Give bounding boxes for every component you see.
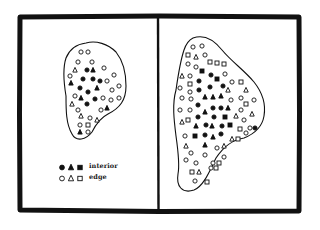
filled-square-marker-icon bbox=[223, 115, 227, 119]
filled-circle-marker-icon bbox=[208, 85, 212, 89]
hollow-circle-marker-icon bbox=[102, 66, 106, 70]
hollow-triangle-marker-icon bbox=[197, 169, 201, 174]
hollow-circle-marker-icon bbox=[112, 73, 116, 77]
hollow-triangle-marker-icon bbox=[73, 67, 77, 72]
edge-symbols-icon bbox=[58, 173, 86, 183]
hollow-square-marker-icon bbox=[239, 80, 243, 84]
left-marker-cluster bbox=[68, 50, 121, 134]
hollow-circle-marker-icon bbox=[239, 108, 243, 112]
hollow-circle-marker-icon bbox=[88, 116, 92, 120]
hollow-circle-marker-icon bbox=[193, 179, 197, 183]
hollow-circle-marker-icon bbox=[105, 79, 109, 83]
hollow-circle-marker-icon bbox=[101, 96, 105, 100]
hollow-circle-marker-icon bbox=[78, 123, 82, 127]
filled-triangle-marker-icon bbox=[194, 123, 198, 128]
hollow-circle-marker-icon bbox=[90, 60, 94, 64]
filled-circle-marker-icon bbox=[78, 86, 82, 90]
legend-label-interior: interior bbox=[89, 161, 118, 172]
hollow-circle-marker-icon bbox=[186, 62, 190, 66]
hollow-circle-marker-icon bbox=[200, 44, 204, 48]
filled-circle-marker-icon bbox=[220, 124, 224, 128]
filled-circle-marker-icon bbox=[204, 123, 208, 127]
hollow-circle-marker-icon bbox=[178, 108, 182, 112]
filled-triangle-marker-icon bbox=[95, 85, 99, 90]
hollow-circle-marker-icon bbox=[203, 153, 207, 157]
hollow-square-marker-icon bbox=[78, 176, 82, 180]
hollow-triangle-marker-icon bbox=[244, 87, 248, 92]
filled-square-marker-icon bbox=[200, 69, 204, 73]
hollow-circle-marker-icon bbox=[180, 96, 184, 100]
filled-triangle-marker-icon bbox=[219, 93, 223, 98]
filled-triangle-marker-icon bbox=[203, 142, 207, 147]
hollow-square-marker-icon bbox=[208, 60, 212, 64]
filled-circle-marker-icon bbox=[211, 106, 215, 110]
right-marker-cluster bbox=[178, 44, 257, 184]
hollow-triangle-marker-icon bbox=[250, 111, 254, 116]
hollow-circle-marker-icon bbox=[248, 126, 252, 130]
hollow-triangle-marker-icon bbox=[180, 119, 184, 124]
filled-circle-marker-icon bbox=[93, 97, 97, 101]
diagram-canvas bbox=[0, 0, 320, 230]
hollow-circle-marker-icon bbox=[188, 90, 192, 94]
legend-label-edge: edge bbox=[89, 172, 107, 183]
filled-circle-marker-icon bbox=[81, 77, 85, 81]
legend-row-edge: edge bbox=[58, 172, 118, 183]
filled-circle-marker-icon bbox=[221, 84, 225, 88]
panel-divider bbox=[158, 16, 159, 211]
hollow-square-marker-icon bbox=[217, 161, 221, 165]
hollow-circle-marker-icon bbox=[183, 134, 187, 138]
hollow-triangle-marker-icon bbox=[234, 113, 238, 118]
hollow-circle-marker-icon bbox=[194, 161, 198, 165]
hollow-circle-marker-icon bbox=[110, 88, 114, 92]
hollow-circle-marker-icon bbox=[223, 72, 227, 76]
hollow-circle-marker-icon bbox=[211, 161, 215, 165]
hollow-circle-marker-icon bbox=[117, 84, 121, 88]
hollow-circle-marker-icon bbox=[242, 118, 246, 122]
filled-triangle-marker-icon bbox=[203, 94, 207, 99]
filled-circle-marker-icon bbox=[86, 90, 90, 94]
hollow-triangle-marker-icon bbox=[79, 113, 83, 118]
filled-circle-marker-icon bbox=[203, 133, 207, 137]
filled-circle-marker-icon bbox=[219, 132, 223, 136]
hollow-circle-marker-icon bbox=[188, 74, 192, 78]
hollow-square-marker-icon bbox=[214, 166, 218, 170]
legend: interior edge bbox=[58, 161, 118, 183]
hollow-square-marker-icon bbox=[190, 170, 194, 174]
filled-triangle-marker-icon bbox=[210, 123, 214, 128]
hollow-circle-marker-icon bbox=[178, 86, 182, 90]
left-panel bbox=[64, 42, 126, 139]
hollow-circle-marker-icon bbox=[99, 108, 103, 112]
hollow-triangle-marker-icon bbox=[184, 143, 188, 148]
filled-circle-marker-icon bbox=[196, 115, 200, 119]
filled-circle-marker-icon bbox=[209, 73, 213, 77]
filled-triangle-marker-icon bbox=[211, 94, 215, 99]
filled-circle-marker-icon bbox=[196, 103, 200, 107]
hollow-square-marker-icon bbox=[238, 127, 242, 131]
hollow-circle-marker-icon bbox=[229, 98, 233, 102]
filled-circle-marker-icon bbox=[91, 77, 95, 81]
hollow-triangle-marker-icon bbox=[70, 101, 74, 106]
hollow-circle-marker-icon bbox=[189, 151, 193, 155]
hollow-square-marker-icon bbox=[244, 102, 248, 106]
filled-triangle-marker-icon bbox=[105, 105, 109, 110]
hollow-circle-marker-icon bbox=[230, 80, 234, 84]
hollow-circle-marker-icon bbox=[79, 50, 83, 54]
hollow-triangle-marker-icon bbox=[222, 143, 226, 148]
hollow-square-marker-icon bbox=[186, 53, 190, 57]
hollow-circle-marker-icon bbox=[215, 146, 219, 150]
filled-square-marker-icon bbox=[215, 77, 219, 81]
hollow-circle-marker-icon bbox=[86, 130, 90, 134]
filled-circle-marker-icon bbox=[85, 102, 89, 106]
filled-triangle-marker-icon bbox=[68, 164, 73, 170]
filled-circle-marker-icon bbox=[212, 115, 216, 119]
hollow-circle-marker-icon bbox=[239, 96, 243, 100]
filled-circle-marker-icon bbox=[197, 79, 201, 83]
filled-triangle-marker-icon bbox=[211, 134, 215, 139]
filled-circle-marker-icon bbox=[197, 88, 201, 92]
hollow-circle-marker-icon bbox=[76, 108, 80, 112]
hollow-triangle-marker-icon bbox=[230, 136, 234, 141]
hollow-circle-marker-icon bbox=[252, 98, 256, 102]
hollow-circle-marker-icon bbox=[68, 74, 72, 78]
hollow-square-marker-icon bbox=[222, 62, 226, 66]
filled-triangle-marker-icon bbox=[79, 95, 83, 100]
